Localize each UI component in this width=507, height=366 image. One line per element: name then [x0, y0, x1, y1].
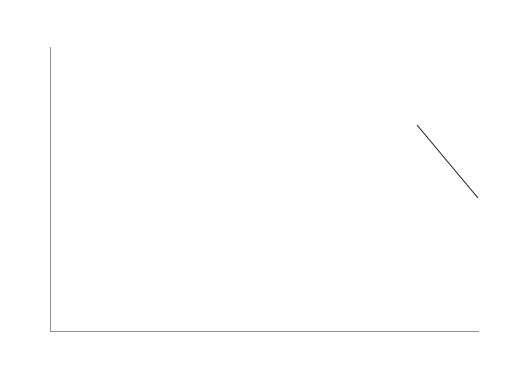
plot-area: [51, 48, 478, 331]
stacked-area-chart: [51, 48, 478, 331]
chart-page: [0, 0, 507, 366]
x-axis-line: [50, 331, 479, 332]
plot-area-wrapper: [0, 0, 507, 366]
y-axis-title-wrapper: [14, 48, 28, 331]
